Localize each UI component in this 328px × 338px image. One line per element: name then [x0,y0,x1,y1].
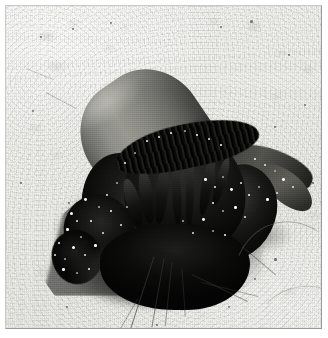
crab-granule [208,138,210,140]
crab-granule [292,186,294,188]
crab-granule [84,198,87,201]
crab-granule [264,164,266,166]
crab-granule [62,268,65,271]
photo-border [5,5,322,329]
sand-blotch [42,62,72,72]
sand-blotch [24,124,46,132]
crab-granule [54,254,56,256]
crab-granule [184,130,186,132]
sand-speck [288,54,290,56]
crab-granule [70,212,73,215]
sand-blotch [118,24,132,30]
crab-granule [234,206,237,209]
crab-granule [158,136,160,138]
sand-speck [156,324,158,326]
sand-speck [72,28,74,30]
sand-speck [274,126,276,128]
photo-frame [0,0,328,338]
crab-granule [134,152,136,154]
sand-blotch [204,18,224,25]
crab-granule [222,176,224,178]
crab-granule [80,236,82,238]
sand-speck [220,26,222,28]
crab-granule [222,210,224,212]
crab-granule [64,258,66,260]
sand-blotch [268,94,285,101]
crab-granule [192,232,194,234]
sand-blotch [98,44,120,52]
crab-granule [94,244,97,247]
crab-granule [98,206,100,208]
sand-blotch [34,32,60,41]
sand-blotch [298,66,318,74]
sand-blotch [242,22,266,31]
crab-granule [102,232,104,234]
sand-speck [250,20,253,23]
crab-granule [204,178,207,181]
sand-blotch [64,20,82,27]
crab-granule [66,228,69,231]
crab-granule [202,218,205,221]
crab-lower-mass [100,224,250,310]
crab-granule [266,198,269,201]
sand-speck [312,182,314,184]
crab-granule [258,186,260,188]
sand-speck [32,110,34,112]
crab-granule [282,178,285,181]
crab-granule [230,188,233,191]
crab-granule [120,224,122,226]
sand-blotch [48,152,66,159]
crab-granule [76,272,78,274]
crab-granule [116,182,118,184]
crab-granule [276,192,278,194]
